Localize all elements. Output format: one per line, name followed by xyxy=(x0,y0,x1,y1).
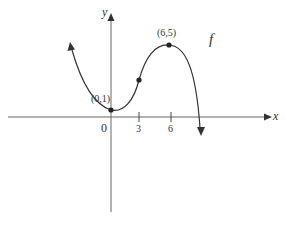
point-min xyxy=(108,107,113,112)
origin-label: 0 xyxy=(101,121,107,135)
x-axis-label: x xyxy=(272,109,279,123)
point-label-min: (0,1) xyxy=(91,93,110,105)
y-axis-label: y xyxy=(101,5,108,19)
x-axis-arrow-icon xyxy=(264,114,272,121)
curve-left-arrow-icon xyxy=(68,42,76,51)
function-graph: y x 0 3 6 (0,1) (6,5) f xyxy=(0,0,285,226)
function-curve xyxy=(72,45,200,128)
point-inflection xyxy=(136,77,141,82)
x-axis xyxy=(8,114,272,121)
y-axis-arrow-icon xyxy=(108,13,115,21)
function-label: f xyxy=(209,31,215,47)
point-label-max: (6,5) xyxy=(157,27,176,39)
x-tick-label-3: 3 xyxy=(136,123,141,134)
x-tick-label-6: 6 xyxy=(168,123,173,134)
point-max xyxy=(166,42,171,47)
curve-right-arrow-icon xyxy=(197,127,205,136)
